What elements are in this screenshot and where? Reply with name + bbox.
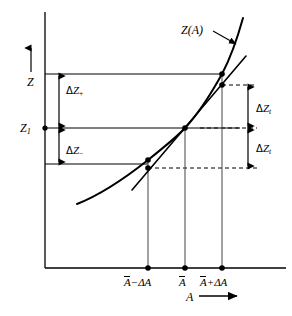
curve-label: Z(A) <box>181 24 203 36</box>
delta-z-t-lower-subscript: t <box>269 147 271 156</box>
x-tick-label-a-bar: A <box>179 277 186 288</box>
z1-label: Z1 <box>20 122 31 134</box>
marker-tick-a-bar <box>182 265 188 271</box>
marker-z1-on-axis <box>42 125 47 130</box>
delta-glyph: Δ <box>66 85 73 96</box>
a-bar-glyph: A <box>179 277 186 288</box>
x-tick-label-a-plus-delta-a: A+ΔA <box>200 277 227 288</box>
delta-z-t-upper-label: ΔZt <box>256 103 271 114</box>
tangent-level-lines <box>148 85 257 168</box>
a-minus-delta: −ΔA <box>131 276 152 288</box>
marker-tick-a-minus <box>145 265 151 271</box>
diagram-svg <box>0 0 292 316</box>
delta-z-plus-label: ΔZ+ <box>66 85 83 96</box>
delta-glyph: Δ <box>256 103 263 114</box>
delta-z-minus-subscript: − <box>79 149 83 158</box>
marker-curve-a-minus <box>145 157 151 163</box>
curve-z-of-a <box>77 18 243 204</box>
marker-tangent-a-minus <box>145 165 151 171</box>
x-axis-label: A <box>186 291 193 303</box>
marker-tangent-a-plus <box>219 82 225 88</box>
a-plus-delta: +ΔA <box>207 276 228 288</box>
delta-z-t-upper-subscript: t <box>269 107 271 116</box>
axis-frame <box>45 12 286 268</box>
z1-var: Z <box>20 121 27 135</box>
delta-glyph: Δ <box>256 143 263 154</box>
marker-curve-a-bar <box>182 125 188 131</box>
a-bar-glyph: A <box>200 277 207 288</box>
y-axis-label: Z <box>27 76 34 88</box>
delta-z-t-lower-label: ΔZt <box>256 143 271 154</box>
delta-z-minus-label: ΔZ− <box>66 145 83 156</box>
marker-curve-a-plus <box>219 71 225 77</box>
delta-glyph: Δ <box>66 145 73 156</box>
curve-label-leader-arrow <box>213 31 236 44</box>
z1-subscript: 1 <box>27 127 31 136</box>
x-tick-label-a-minus-delta-a: A−ΔA <box>124 277 151 288</box>
delta-z-plus-subscript: + <box>79 89 83 98</box>
drop-lines <box>148 74 222 268</box>
marker-tick-a-plus <box>219 265 225 271</box>
figure-canvas: Z Z1 ΔZ+ ΔZ− ΔZt ΔZt Z(A) A−ΔA A A+ΔA A <box>0 0 292 316</box>
a-bar-glyph: A <box>124 277 131 288</box>
